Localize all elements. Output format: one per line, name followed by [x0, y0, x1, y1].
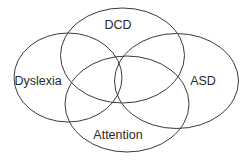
asd-ellipse	[115, 34, 239, 129]
dyslexia-label: Dyslexia	[14, 74, 61, 88]
asd-label: ASD	[190, 74, 216, 88]
attention-label: Attention	[93, 128, 142, 142]
venn-diagram: DCD Dyslexia ASD Attention	[0, 0, 248, 160]
dcd-label: DCD	[104, 18, 131, 32]
